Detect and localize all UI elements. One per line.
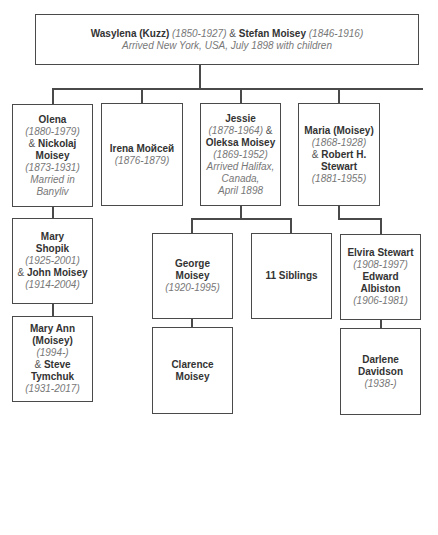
spouse-dates: (1906-1981)	[353, 295, 407, 307]
dates: (1925-2001)	[25, 255, 79, 267]
root-name-1: Wasylena (Kuzz)	[91, 28, 170, 39]
note-3: April 1898	[218, 185, 263, 197]
grandchild-box-siblings: 11 Siblings	[251, 233, 332, 319]
great-grandchild-box-darlene: Darlene Davidson (1938-)	[340, 328, 421, 415]
spouse-dates: (1914-2004)	[25, 279, 79, 291]
grandchild-box-george: George Moisey (1920-1995)	[152, 233, 233, 319]
dates-line: (1878-1964) &	[209, 125, 273, 137]
connector-maria	[338, 88, 340, 104]
maiden-name: (Moisey)	[32, 335, 73, 347]
note: Married in Banyliv	[16, 174, 89, 198]
amp: &	[263, 125, 272, 136]
dates: (1876-1879)	[115, 155, 169, 167]
dates: (1938-)	[364, 378, 396, 390]
amp: &	[29, 138, 38, 149]
connector-irena	[141, 88, 143, 104]
spouse-name: Oleksa Moisey	[206, 137, 275, 149]
amp: &	[312, 149, 321, 160]
name: Darlene Davidson	[344, 354, 417, 378]
surname: Moisey	[176, 371, 210, 383]
connector-jessie	[240, 88, 242, 104]
name: Irena Мойсей	[110, 143, 175, 155]
great-grandchild-box-clarence: Clarence Moisey	[152, 327, 233, 414]
spouse-surname: Moisey	[36, 150, 70, 162]
spouse-name: Nickolaj	[38, 138, 76, 149]
connector-george	[191, 218, 193, 233]
connector-george-clarence	[191, 318, 193, 327]
spouse-name: Robert H.	[321, 149, 366, 160]
spouse-dates: (1873-1931)	[25, 162, 79, 174]
dates: (1880-1979)	[25, 126, 79, 138]
spouse-name: John Moisey	[27, 267, 88, 278]
connector-olena	[52, 88, 54, 104]
name: Olena	[39, 114, 67, 126]
connector-jessie-down	[240, 205, 242, 219]
name: Elvira Stewart	[347, 247, 413, 259]
great-grandchild-box-maryann: Mary Ann (Moisey) (1994-) & Steve Tymchu…	[12, 316, 93, 402]
spouse-name: Steve	[44, 359, 71, 370]
grandchild-box-mary: Mary Shopik (1925-2001) & John Moisey (1…	[12, 218, 93, 304]
root-name-2: Stefan Moisey	[239, 28, 306, 39]
root-note: Arrived New York, USA, July 1898 with ch…	[122, 40, 332, 52]
connector-siblings	[290, 218, 292, 233]
name: Mary Ann	[30, 323, 75, 335]
spouse-surname: Tymchuk	[31, 371, 74, 383]
connector-olena-mary	[52, 206, 54, 218]
amp: &	[34, 359, 43, 370]
root-dates-1: (1850-1927)	[172, 28, 226, 39]
spouse-line: & Nickolaj	[29, 138, 77, 150]
spouse-dates: (1881-1955)	[312, 173, 366, 185]
connector-root-down	[199, 64, 201, 89]
spouse-line: & John Moisey	[17, 267, 87, 279]
spouse-dates: (1869-1952)	[213, 149, 267, 161]
surname: Shopik	[36, 243, 69, 255]
root-dates-2: (1846-1916)	[309, 28, 363, 39]
name: Maria (Moisey)	[304, 125, 373, 137]
connector-maria-down	[338, 205, 340, 219]
connector-mary-maryann	[52, 303, 54, 316]
name: Mary	[41, 231, 64, 243]
root-names-line: Wasylena (Kuzz) (1850-1927) & Stefan Moi…	[91, 28, 364, 40]
root-couple-box: Wasylena (Kuzz) (1850-1927) & Stefan Moi…	[35, 14, 419, 65]
amp: &	[17, 267, 26, 278]
spouse-line: & Robert H.	[312, 149, 366, 161]
spouse-surname: Stewart	[321, 161, 357, 173]
note-1: Arrived Halifax,	[207, 161, 275, 173]
connector-jessie-bar	[191, 218, 291, 220]
surname: Moisey	[176, 270, 210, 282]
dates: (1920-1995)	[165, 282, 219, 294]
spouse-name: Edward Albiston	[344, 271, 417, 295]
label: 11 Siblings	[265, 270, 317, 282]
spouse-dates: (1931-2017)	[25, 383, 79, 395]
note-2: Canada,	[222, 173, 260, 185]
connector-elvira	[380, 218, 382, 234]
grandchild-box-elvira: Elvira Stewart (1908-1997) Edward Albist…	[340, 234, 421, 320]
dates: (1994-)	[36, 347, 68, 359]
connector-siblings-bar	[52, 88, 423, 90]
child-box-irena: Irena Мойсей (1876-1879)	[101, 103, 183, 206]
child-box-jessie: Jessie (1878-1964) & Oleksa Moisey (1869…	[200, 103, 281, 206]
dates: (1878-1964)	[209, 125, 263, 136]
name: George	[175, 258, 210, 270]
dates: (1868-1928)	[312, 137, 366, 149]
connector-elvira-darlene	[380, 319, 382, 328]
spouse-line: & Steve	[34, 359, 70, 371]
dates: (1908-1997)	[353, 259, 407, 271]
name: Jessie	[225, 113, 256, 125]
connector-maria-bar	[338, 218, 381, 220]
child-box-maria: Maria (Moisey) (1868-1928) & Robert H. S…	[298, 103, 380, 206]
root-amp: &	[227, 28, 239, 39]
child-box-olena: Olena (1880-1979) & Nickolaj Moisey (187…	[12, 104, 93, 207]
name: Clarence	[171, 359, 213, 371]
